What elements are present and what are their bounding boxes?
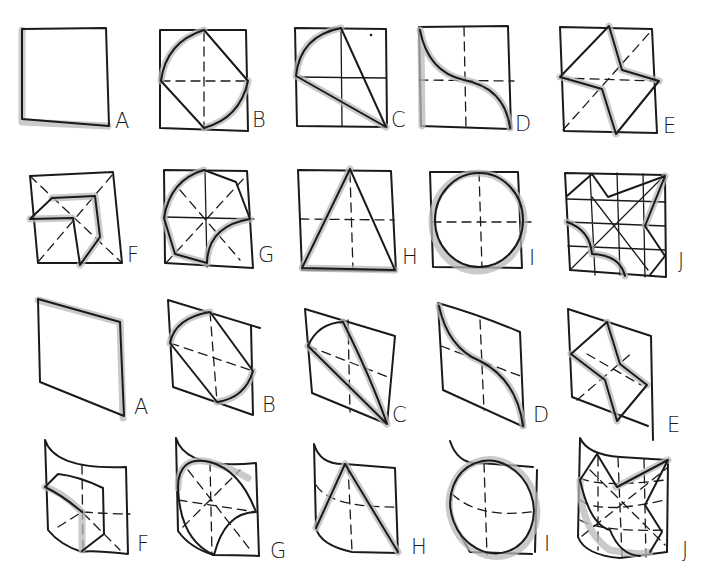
figure-g-flat: G — [164, 170, 274, 268]
label-c-skewed: C — [392, 403, 407, 427]
figure-c-flat: C — [295, 28, 406, 132]
sketch-diagram: A B C D E F — [0, 0, 711, 583]
label-g-curved: G — [270, 539, 286, 563]
figure-h-curved: H — [314, 444, 427, 559]
label-h-curved: H — [411, 535, 427, 559]
label-b-flat: B — [252, 108, 266, 132]
label-e-flat: E — [663, 114, 676, 138]
label-g-flat: G — [258, 243, 274, 267]
label-c-flat: C — [391, 108, 406, 132]
label-e-skewed: E — [667, 413, 680, 437]
figure-d-skewed: D — [438, 303, 549, 427]
label-d-skewed: D — [533, 403, 549, 427]
label-i-flat: I — [529, 246, 535, 270]
label-f-flat: F — [127, 243, 139, 267]
figure-d-flat: D — [419, 26, 531, 136]
figure-a-skewed: A — [38, 299, 148, 419]
label-a-skewed: A — [134, 395, 148, 419]
label-b-skewed: B — [262, 393, 276, 417]
label-d-flat: D — [515, 112, 531, 136]
figure-j-curved: J — [578, 438, 688, 562]
figure-g-curved: G — [176, 438, 286, 563]
figure-e-skewed: E — [568, 309, 680, 440]
figure-i-flat: I — [430, 172, 535, 271]
figure-f-curved: F — [45, 440, 149, 556]
figure-a-flat: A — [22, 28, 129, 133]
figure-b-skewed: B — [168, 300, 276, 417]
label-j-curved: J — [682, 538, 688, 562]
figure-i-curved: I — [436, 441, 550, 569]
figure-c-skewed: C — [305, 309, 407, 427]
figure-e-flat: E — [560, 26, 676, 138]
label-j-flat: J — [678, 249, 684, 273]
label-i-curved: I — [544, 532, 550, 556]
figure-b-flat: B — [160, 30, 266, 132]
figure-f-flat: F — [30, 172, 139, 267]
label-a-flat: A — [115, 109, 129, 133]
figure-h-flat: H — [298, 169, 418, 271]
label-f-curved: F — [137, 532, 149, 556]
label-h-flat: H — [402, 245, 418, 269]
figure-j-flat: J — [565, 173, 684, 277]
